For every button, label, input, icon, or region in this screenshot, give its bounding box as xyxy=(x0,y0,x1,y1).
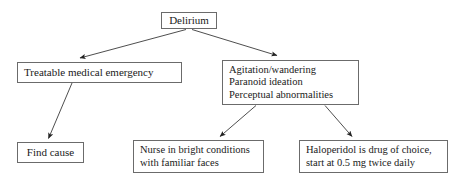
node-treatable-medical-emergency: Treatable medical emergency xyxy=(17,62,182,83)
edge-symptoms-to-nurse xyxy=(220,106,256,137)
node-symptoms-line-1: Agitation/wandering xyxy=(229,64,316,76)
node-delirium: Delirium xyxy=(161,12,217,29)
node-symptoms: Agitation/wandering Paranoid ideation Pe… xyxy=(222,60,359,105)
node-find-cause: Find cause xyxy=(17,142,84,163)
node-treatable-line-1: Treatable medical emergency xyxy=(24,66,154,79)
edge-symptoms-to-haloperidol xyxy=(325,106,352,137)
node-nurse-line-1: Nurse in bright conditions xyxy=(140,144,250,156)
node-nurse-bright-conditions: Nurse in bright conditions with familiar… xyxy=(133,140,264,173)
node-delirium-line-1: Delirium xyxy=(169,14,209,27)
node-nurse-line-2: with familiar faces xyxy=(140,157,219,169)
flowchart-canvas: Delirium Treatable medical emergency Agi… xyxy=(0,0,462,183)
edge-delirium-to-symptoms xyxy=(192,30,277,56)
node-haloperidol: Haloperidol is drug of choice, start at … xyxy=(299,140,448,173)
node-haloperidol-line-1: Haloperidol is drug of choice, xyxy=(306,144,432,156)
node-haloperidol-line-2: start at 0.5 mg twice daily xyxy=(306,157,415,169)
edge-delirium-to-treatable xyxy=(80,30,186,59)
node-find-cause-line-1: Find cause xyxy=(27,146,74,159)
node-symptoms-line-2: Paranoid ideation xyxy=(229,76,303,88)
edge-treatable-to-find-cause xyxy=(49,83,73,139)
node-symptoms-line-3: Perceptual abnormalities xyxy=(229,89,333,101)
